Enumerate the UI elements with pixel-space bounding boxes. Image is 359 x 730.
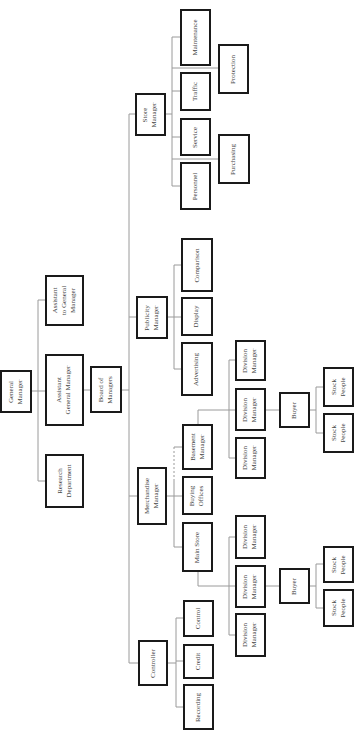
node-assistant-to-general-manager: Assistant to General Manager	[45, 275, 84, 326]
node-main-stock-people: Stock People	[323, 546, 354, 583]
node-label: Publicity Manager	[143, 305, 161, 330]
node-credit: Credit	[183, 644, 214, 679]
node-label: Division Manager	[241, 623, 259, 648]
node-advertising: Advertising	[181, 342, 213, 396]
node-main-division-manager: Division Manager	[235, 565, 266, 608]
node-label: Service	[191, 127, 200, 148]
node-personnel: Personnel	[180, 162, 211, 210]
node-label: Traffic	[191, 82, 200, 101]
node-basement-buyer: Buyer	[279, 392, 310, 428]
node-basement-stock-people: Stock People	[323, 413, 354, 453]
node-label: Advertising	[193, 352, 202, 385]
node-basement-division-manager: Division Manager	[235, 437, 266, 479]
node-label: Basement Manager	[189, 433, 207, 461]
node-label: Stock People	[330, 598, 348, 617]
node-label: Research Department	[55, 464, 73, 497]
node-traffic: Traffic	[180, 72, 211, 111]
node-label: Protection	[229, 55, 238, 84]
node-service: Service	[180, 118, 211, 156]
node-label: Display	[193, 306, 202, 328]
node-label: Division Manager	[241, 397, 259, 422]
node-basement-manager: Basement Manager	[182, 424, 213, 470]
node-label: Personnel	[191, 172, 200, 200]
node-label: Stock People	[330, 423, 348, 442]
node-basement-division-manager: Division Manager	[235, 340, 266, 381]
node-main-division-manager: Division Manager	[235, 613, 266, 657]
org-chart: General Manager Assistant to General Man…	[0, 0, 359, 730]
node-label: Stock People	[330, 555, 348, 574]
node-research-department: Research Department	[45, 454, 84, 508]
node-label: Division Manager	[241, 525, 259, 550]
node-label: Credit	[194, 653, 203, 671]
node-protection: Protection	[218, 44, 249, 94]
node-buying-offices: Buying Offices	[182, 476, 213, 515]
node-main-buyer: Buyer	[279, 568, 310, 604]
node-publicity-manager: Publicity Manager	[136, 296, 168, 339]
node-purchasing: Purchasing	[218, 134, 250, 184]
node-label: Division Manager	[241, 446, 259, 471]
node-assistant-general-manager: Assistant General Manager	[45, 354, 84, 426]
node-label: Maintenance	[191, 19, 200, 55]
node-label: Buyer	[290, 577, 299, 594]
node-comparison: Comparison	[181, 238, 213, 292]
node-label: Merchandise Manager	[143, 478, 161, 514]
node-label: Assistant to General Manager	[51, 286, 78, 315]
node-label: Control	[194, 608, 203, 629]
node-label: General Manager	[7, 379, 25, 404]
node-main-stock-people: Stock People	[323, 589, 354, 627]
node-label: Purchasing	[230, 143, 239, 174]
node-basement-division-manager: Division Manager	[235, 388, 266, 431]
node-label: Controller	[149, 649, 158, 678]
node-maintenance: Maintenance	[180, 9, 211, 66]
node-merchandise-manager: Merchandise Manager	[137, 467, 167, 525]
node-label: Buying Offices	[189, 485, 207, 506]
node-label: Main Store	[193, 531, 202, 562]
node-main-store: Main Store	[182, 522, 213, 572]
node-recording: Recording	[183, 684, 214, 730]
node-label: Stock People	[330, 377, 348, 396]
node-label: Comparison	[193, 248, 202, 282]
node-main-division-manager: Division Manager	[235, 515, 266, 559]
node-controller: Controller	[138, 640, 168, 686]
node-label: Recording	[194, 692, 203, 721]
node-label: Board of Managers	[97, 376, 115, 404]
node-basement-stock-people: Stock People	[323, 367, 354, 407]
node-label: Store Manager	[141, 102, 159, 127]
node-control: Control	[183, 600, 214, 637]
node-label: Division Manager	[241, 574, 259, 599]
node-label: Assistant General Manager	[56, 366, 74, 415]
node-label: Division Manager	[241, 348, 259, 373]
node-general-manager: General Manager	[0, 370, 32, 413]
node-store-manager: Store Manager	[135, 93, 166, 136]
node-board-of-managers: Board of Managers	[90, 366, 122, 413]
node-label: Buyer	[290, 401, 299, 418]
node-display: Display	[181, 297, 213, 336]
